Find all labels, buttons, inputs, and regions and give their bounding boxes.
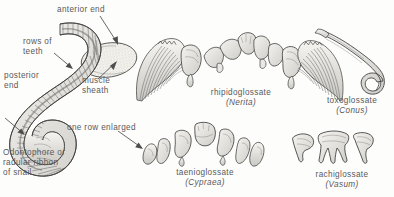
label-toxoglossate-genus: (Conus) (312, 106, 392, 116)
taenioglossate-specimen-drawing (143, 122, 264, 166)
label-muscle-sheath: muscle sheath (82, 76, 110, 96)
anterior-end-arrow (100, 16, 118, 45)
label-rachiglossate-genus: (Vasum) (296, 180, 388, 190)
label-taenioglossate-type: taenioglossate (150, 168, 260, 178)
label-toxoglossate-type: toxoglossate (312, 96, 392, 106)
label-taenioglossate-genus: (Cypraea) (150, 178, 260, 188)
label-rachiglossate-type: rachiglossate (296, 170, 388, 180)
label-posterior-end: posterior end (4, 71, 39, 91)
label-anterior-end: anterior end (57, 5, 105, 15)
rhipidoglossate-left-lateral-tooth (181, 45, 201, 87)
rows-of-teeth-arrow (54, 53, 73, 69)
rhipidoglossate-central-arch (204, 33, 284, 73)
rhipidoglossate-right-fan (297, 41, 343, 101)
label-odontophore-radular-ribbon: Odontophore or radular ribbon of snail (3, 148, 65, 179)
label-rhipidoglossate-type: rhipidoglossate (186, 88, 296, 98)
radula-figure-canvas: anterior end rows of teeth posterior end… (0, 0, 394, 197)
one-row-enlarged-arrow (118, 131, 143, 149)
rachiglossate-specimen-drawing (293, 131, 374, 163)
rhipidoglossate-left-fan (136, 39, 185, 101)
label-one-row-enlarged: one row enlarged (67, 123, 136, 133)
label-rows-of-teeth: rows of teeth (23, 37, 52, 57)
label-rhipidoglossate-genus: (Nerita) (186, 98, 296, 108)
